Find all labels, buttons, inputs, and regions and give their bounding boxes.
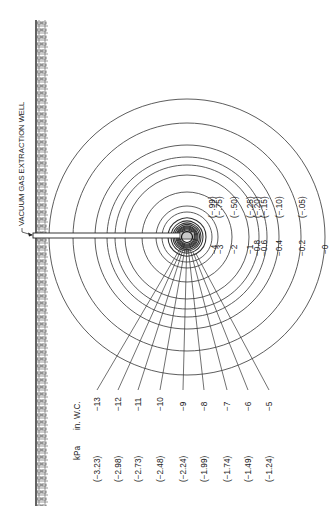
contour-label-inwc: −0.2	[298, 239, 307, 256]
leader-line	[193, 252, 248, 390]
arrowhead-icon	[28, 233, 33, 237]
contour-label-inwc: −6	[244, 401, 253, 411]
extraction-well	[33, 232, 194, 243]
contour-label-kpa: (−.75)	[215, 196, 224, 218]
leader-line	[183, 248, 187, 390]
contour-label-inwc: −5	[265, 401, 274, 411]
contour-label-inwc: −13	[93, 397, 102, 411]
left-contour-labels: kPa in. W.C. −13(−3.23)−12(−2.98)−11(−2.…	[73, 397, 274, 482]
contour-label-kpa: (−.50)	[230, 196, 239, 218]
contour-label-inwc: −3	[216, 244, 225, 254]
contour-label-inwc: −0	[321, 244, 330, 254]
contour-label-kpa: (−1.99)	[200, 456, 209, 482]
well-casing	[33, 233, 185, 238]
leader-line	[188, 249, 204, 390]
contour-label-kpa: (−3.23)	[93, 456, 102, 482]
leader-line	[138, 246, 184, 390]
contour-label-kpa: (−1.24)	[265, 456, 274, 482]
contour-label-kpa: (−2.24)	[179, 456, 188, 482]
contour-label-kpa: (−.15)	[260, 196, 269, 218]
contour-label-inwc: −10	[156, 397, 165, 411]
contour-label-kpa: (−2.73)	[134, 456, 143, 482]
contour-label-inwc: −0.6	[260, 239, 269, 256]
contour-label-kpa: (−1.49)	[244, 456, 253, 482]
leader-lines	[97, 243, 269, 390]
contour-label-kpa: (−.10)	[275, 196, 284, 218]
leader-line	[118, 244, 184, 390]
contour-label-kpa: (−2.98)	[114, 456, 123, 482]
soil-hatching	[37, 20, 48, 506]
contour-label-inwc: −12	[114, 397, 123, 411]
right-contour-labels: −4(−.99)−3(−.75)−2(−.50)−1(−.25)−0.8(−.2…	[208, 196, 330, 256]
vacuum-contour-diagram: VACUUM GAS EXTRACTION WELL −4(−.99)−3(−.…	[0, 0, 332, 525]
ground-surface	[36, 20, 48, 506]
contour-label-inwc: −9	[179, 401, 188, 411]
contour-label-kpa: (−1.74)	[223, 456, 232, 482]
leader-line	[97, 243, 183, 390]
well-label-group: VACUUM GAS EXTRACTION WELL	[17, 102, 33, 237]
contour-label-inwc: −7	[223, 401, 232, 411]
contour-label-kpa: (−2.48)	[156, 456, 165, 482]
contour-label-kpa: (−.05)	[298, 196, 307, 218]
inwc-unit-header: in. W.C.	[73, 401, 82, 430]
contour-label-inwc: −0.4	[275, 239, 284, 256]
well-label: VACUUM GAS EXTRACTION WELL	[17, 102, 26, 226]
contour-label-inwc: −2	[230, 244, 239, 254]
kpa-unit-header: kPa	[73, 445, 82, 460]
contour-label-inwc: −11	[134, 397, 143, 411]
contour-label-inwc: −8	[200, 401, 209, 411]
